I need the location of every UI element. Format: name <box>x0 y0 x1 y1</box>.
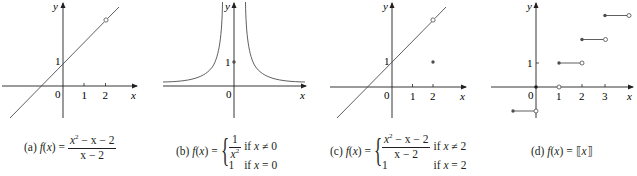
x-axis-label: x <box>459 90 465 102</box>
closed-point <box>603 14 606 17</box>
closed-point-0-1 <box>232 60 235 63</box>
curve-left-branch <box>163 2 223 82</box>
graph-c: y x 0 1 2 1 <box>330 0 466 118</box>
closed-point-origin <box>534 85 538 89</box>
origin-label: 0 <box>55 88 61 100</box>
function-line-upper <box>435 7 446 18</box>
open-point <box>557 85 561 89</box>
y-axis-label: y <box>52 0 58 12</box>
function-line-upper <box>108 7 119 18</box>
y-tick-label-1: 1 <box>384 55 390 67</box>
graph-b: y x 0 1 <box>163 0 306 118</box>
y-tick-label-1: 1 <box>55 55 61 67</box>
caption-label: (b) <box>176 145 189 157</box>
open-point-hole <box>431 18 435 22</box>
caption-label: (c) <box>330 145 343 157</box>
closed-point <box>511 109 514 112</box>
x-tick-label-2: 2 <box>579 90 585 102</box>
caption-label: (d) <box>531 145 544 157</box>
left-brace: { <box>221 133 229 167</box>
y-axis-label: y <box>224 0 230 12</box>
piecewise-cases: { 1x2 if x ≠ 0 1 if x = 0 <box>221 134 281 172</box>
caption-a: (a) f(x) = x2 − x − 2 x − 2 <box>24 135 116 161</box>
function-line <box>337 22 432 118</box>
graph-a: y x 0 1 2 1 <box>2 0 137 118</box>
open-point-hole <box>104 18 108 22</box>
caption-b: (b) f(x) = { 1x2 if x ≠ 0 1 if x = 0 <box>176 134 280 172</box>
caption-d: (d) f(x) = ⟦x⟧ <box>531 146 593 158</box>
x-axis-label: x <box>299 89 305 101</box>
closed-point <box>580 38 583 41</box>
caption-label: (a) <box>24 141 37 153</box>
x-axis-label: x <box>130 89 136 101</box>
y-axis-label: y <box>526 0 532 12</box>
graphs-canvas: y x 0 1 2 1 y x 0 1 y x 0 1 2 1 <box>0 0 637 120</box>
left-brace: { <box>374 133 382 167</box>
open-point <box>627 14 631 18</box>
x-tick-label-3: 3 <box>602 90 608 102</box>
origin-label: 0 <box>384 89 390 101</box>
x-axis-label: x <box>626 90 632 102</box>
x-tick-label-1: 1 <box>82 89 88 101</box>
open-point <box>534 109 538 113</box>
function-line <box>10 22 104 118</box>
y-tick-label-1: 1 <box>225 56 231 68</box>
open-point <box>604 38 608 42</box>
origin-label: 0 <box>528 89 534 101</box>
x-tick-label-2: 2 <box>430 90 436 102</box>
curve-right-branch <box>246 2 306 82</box>
y-axis-label: y <box>382 0 388 12</box>
open-point <box>580 61 584 65</box>
closed-point <box>557 61 560 64</box>
fraction: x2 − x − 2 x − 2 <box>68 135 117 161</box>
x-tick-label-1: 1 <box>556 90 562 102</box>
graph-d: y x 0 1 2 3 1 <box>491 0 633 118</box>
closed-point-2-1 <box>431 60 434 63</box>
x-tick-label-1: 1 <box>410 90 416 102</box>
piecewise-cases: { x2 − x − 2x − 2 if x ≠ 2 1 if x = 2 <box>374 134 470 172</box>
caption-c: (c) f(x) = { x2 − x − 2x − 2 if x ≠ 2 1 … <box>330 134 469 172</box>
origin-label: 0 <box>226 88 232 100</box>
x-tick-label-2: 2 <box>103 89 109 101</box>
y-tick-label-1: 1 <box>527 57 533 69</box>
